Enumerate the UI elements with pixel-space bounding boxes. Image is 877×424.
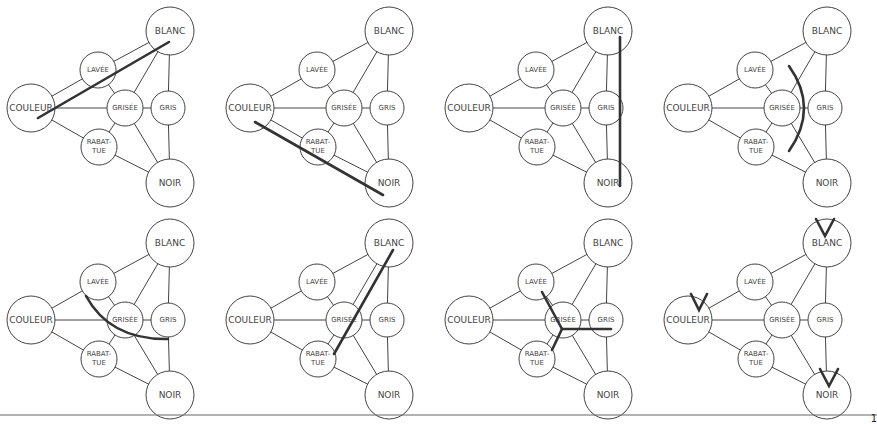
node-blanc: BLANC — [365, 7, 413, 55]
node-noir: NOIR — [146, 371, 194, 419]
node-label: BLANC — [593, 238, 624, 248]
node-grisee: GRISÉE — [545, 90, 581, 126]
node-couleur: COULEUR — [7, 296, 55, 344]
node-label: NOIR — [597, 178, 620, 188]
node-label: NOIR — [816, 178, 839, 188]
node-label: NOIR — [159, 178, 182, 188]
diagram-panel-lavee-rabattue: BLANCLAVÉECOULEURGRISÉEGRISRABAT-TUENOIR — [664, 7, 851, 207]
node-grisee: GRISÉE — [326, 90, 362, 126]
node-gris: GRIS — [151, 91, 185, 125]
node-label: COULEUR — [9, 315, 53, 325]
node-label: TUE — [310, 359, 325, 367]
page-number: 1 — [871, 413, 877, 424]
node-label: BLANC — [374, 238, 405, 248]
node-label: LAVÉE — [525, 277, 547, 286]
node-rabattue: RABAT-TUE — [519, 341, 555, 377]
node-label: GRIS — [379, 104, 396, 112]
node-label: NOIR — [378, 390, 401, 400]
node-rabattue: RABAT-TUE — [81, 341, 117, 377]
node-noir: NOIR — [146, 159, 194, 207]
node-grisee: GRISÉE — [107, 90, 143, 126]
node-label: GRISÉE — [112, 103, 138, 112]
node-label: GRIS — [817, 316, 834, 324]
node-rabattue: RABAT-TUE — [738, 341, 774, 377]
node-label: RABAT- — [87, 350, 112, 358]
node-noir: NOIR — [584, 371, 632, 419]
node-rabattue: RABAT-TUE — [519, 129, 555, 165]
node-label: NOIR — [378, 178, 401, 188]
node-grisee: GRISÉE — [764, 90, 800, 126]
node-noir: NOIR — [803, 159, 851, 207]
node-lavee: LAVÉE — [518, 264, 554, 300]
diagram-panel-rabattue-blanc: BLANCLAVÉECOULEURGRISÉEGRISRABAT-TUENOIR — [226, 219, 413, 419]
node-lavee: LAVÉE — [737, 52, 773, 88]
node-blanc: BLANC — [584, 219, 632, 267]
node-label: GRISÉE — [112, 315, 138, 324]
node-lavee: LAVÉE — [737, 264, 773, 300]
node-label: BLANC — [812, 26, 843, 36]
node-label: GRIS — [379, 316, 396, 324]
node-label: COULEUR — [666, 103, 710, 113]
node-gris: GRIS — [151, 303, 185, 337]
diagram-panel-poles: BLANCLAVÉECOULEURGRISÉEGRISRABAT-TUENOIR — [664, 219, 851, 419]
node-grisee: GRISÉE — [764, 302, 800, 338]
node-label: LAVÉE — [87, 277, 109, 286]
node-label: LAVÉE — [87, 65, 109, 74]
node-blanc: BLANC — [365, 219, 413, 267]
node-blanc: BLANC — [584, 7, 632, 55]
node-label: LAVÉE — [744, 277, 766, 286]
node-label: TUE — [529, 359, 544, 367]
node-lavee: LAVÉE — [80, 264, 116, 300]
node-label: COULEUR — [228, 103, 272, 113]
node-blanc: BLANC — [146, 7, 194, 55]
node-label: BLANC — [155, 238, 186, 248]
node-label: TUE — [91, 147, 106, 155]
node-label: RABAT- — [744, 138, 769, 146]
node-rabattue: RABAT-TUE — [738, 129, 774, 165]
node-couleur: COULEUR — [226, 296, 274, 344]
diagram-panel-blanc-noir: BLANCLAVÉECOULEURGRISÉEGRISRABAT-TUENOIR — [445, 7, 632, 207]
node-label: GRIS — [817, 104, 834, 112]
node-couleur: COULEUR — [664, 84, 712, 132]
node-label: RABAT- — [525, 138, 550, 146]
node-label: COULEUR — [447, 315, 491, 325]
node-label: GRIS — [160, 104, 177, 112]
node-grisee: GRISÉE — [326, 302, 362, 338]
diagram-panel-couleur-noir: BLANCLAVÉECOULEURGRISÉEGRISRABAT-TUENOIR — [226, 7, 413, 207]
node-gris: GRIS — [589, 303, 623, 337]
node-blanc: BLANC — [146, 219, 194, 267]
diagram-panel-grisee-center: BLANCLAVÉECOULEURGRISÉEGRISRABAT-TUENOIR — [445, 219, 632, 419]
node-label: COULEUR — [9, 103, 53, 113]
node-rabattue: RABAT-TUE — [81, 129, 117, 165]
node-gris: GRIS — [370, 91, 404, 125]
node-label: TUE — [748, 359, 763, 367]
node-gris: GRIS — [808, 91, 842, 125]
node-label: RABAT- — [306, 138, 331, 146]
node-label: BLANC — [374, 26, 405, 36]
node-label: COULEUR — [447, 103, 491, 113]
node-couleur: COULEUR — [445, 84, 493, 132]
node-label: BLANC — [593, 26, 624, 36]
node-gris: GRIS — [589, 91, 623, 125]
node-couleur: COULEUR — [226, 84, 274, 132]
color-relation-diagram-sheet: BLANCLAVÉECOULEURGRISÉEGRISRABAT-TUENOIR… — [0, 0, 877, 424]
node-label: NOIR — [159, 390, 182, 400]
node-blanc: BLANC — [803, 219, 851, 267]
node-label: NOIR — [816, 390, 839, 400]
node-label: LAVÉE — [744, 65, 766, 74]
node-noir: NOIR — [803, 371, 851, 419]
node-gris: GRIS — [370, 303, 404, 337]
node-label: GRIS — [160, 316, 177, 324]
node-lavee: LAVÉE — [299, 52, 335, 88]
node-noir: NOIR — [365, 159, 413, 207]
node-label: RABAT- — [306, 350, 331, 358]
node-label: GRISÉE — [331, 103, 357, 112]
node-label: GRISÉE — [769, 103, 795, 112]
node-couleur: COULEUR — [664, 296, 712, 344]
node-noir: NOIR — [584, 159, 632, 207]
node-lavee: LAVÉE — [518, 52, 554, 88]
node-label: TUE — [529, 147, 544, 155]
node-label: COULEUR — [666, 315, 710, 325]
diagram-panel-couleur-blanc: BLANCLAVÉECOULEURGRISÉEGRISRABAT-TUENOIR — [7, 7, 194, 207]
node-rabattue: RABAT-TUE — [300, 341, 336, 377]
